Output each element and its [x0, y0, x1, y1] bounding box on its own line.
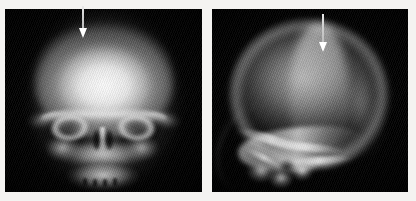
arrow-shaft — [82, 6, 84, 28]
ap-tooth-gap — [83, 178, 87, 186]
figure-caption: Paired skull radiographs with arrow anno… — [0, 0, 1, 1]
xray-panel-ap — [5, 9, 202, 192]
ap-nasal-septum — [100, 127, 105, 153]
lat-air-space — [308, 165, 330, 183]
arrow-head — [319, 42, 327, 52]
arrow-shaft — [322, 14, 324, 42]
lat-air-space — [278, 159, 296, 175]
ap-nasal-cavity-right — [105, 129, 114, 151]
arrow-marker-ap-icon: right frontal calvarial lesion — [77, 6, 88, 38]
xray-panel-lateral — [212, 9, 408, 192]
arrow-marker-lateral-icon: frontoparietal calvarial lesion — [317, 14, 328, 52]
arrow-head — [79, 28, 87, 38]
ap-tooth-gap — [103, 179, 107, 187]
ap-mandible — [67, 164, 139, 192]
arrow-lat-target-label: frontoparietal calvarial lesion — [317, 14, 318, 15]
ap-image-content — [5, 9, 202, 192]
arrow-ap-target-label: right frontal calvarial lesion — [77, 6, 78, 7]
lateral-image-content — [212, 9, 408, 192]
ap-tooth-gap — [93, 179, 97, 187]
ap-tooth-gap — [113, 178, 117, 186]
radiograph-figure: right frontal calvarial lesion — [0, 0, 416, 201]
